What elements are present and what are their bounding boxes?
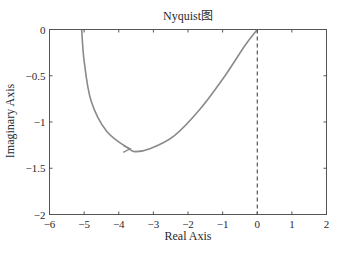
x-tick-label: −3 — [148, 218, 160, 230]
y-tick-label: −1.5 — [26, 162, 46, 174]
x-axis-label: Real Axis — [165, 229, 212, 243]
x-tick-label: 2 — [324, 218, 330, 230]
x-tick-label: −4 — [113, 218, 125, 230]
x-tick-label: −2 — [182, 218, 194, 230]
y-axis-label: Imaginary Axis — [3, 84, 17, 159]
y-tick-label: −0.5 — [26, 70, 46, 82]
plot-area: −6−5−4−3−2−10120−0.5−1−1.5−2 — [26, 24, 330, 230]
nyquist-chart: Nyquist图 −6−5−4−3−2−10120−0.5−1−1.5−2 Re… — [0, 0, 342, 253]
y-tick-label: −1 — [34, 116, 46, 128]
chart-canvas: Nyquist图 −6−5−4−3−2−10120−0.5−1−1.5−2 Re… — [0, 0, 342, 253]
nyquist-curve — [82, 30, 258, 152]
x-tick-label: 0 — [255, 218, 261, 230]
y-tick-label: 0 — [40, 24, 46, 36]
x-tick-label: 1 — [289, 218, 295, 230]
chart-title: Nyquist图 — [163, 9, 213, 23]
x-tick-label: −5 — [78, 218, 90, 230]
direction-arrow-icon — [123, 145, 130, 152]
x-tick-label: −1 — [217, 218, 229, 230]
y-tick-label: −2 — [34, 209, 46, 221]
